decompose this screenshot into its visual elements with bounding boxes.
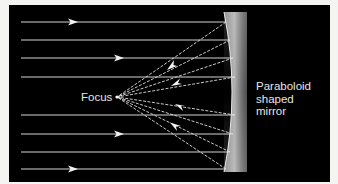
reflected-rays (117, 22, 235, 169)
paraboloid-mirror (224, 12, 247, 172)
mirror-label-line2: shaped (256, 93, 311, 106)
focus-label: Focus (81, 91, 112, 104)
arrow-left-icon (171, 79, 182, 87)
mirror-label-line1: Paraboloid (256, 80, 311, 93)
arrow-left-icon (170, 123, 181, 132)
focus-point (115, 95, 118, 98)
mirror-label: Paraboloid shaped mirror (256, 80, 311, 118)
mirror-label-line3: mirror (256, 105, 311, 118)
